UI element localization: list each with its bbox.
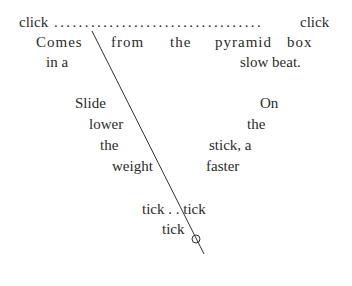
word-faster: faster	[206, 159, 239, 174]
word-pyramid: pyramid	[215, 35, 272, 50]
phrase-stick-a: stick, a	[209, 138, 252, 153]
word-comes: Comes	[36, 35, 83, 50]
word-on: On	[260, 96, 278, 111]
phrase-slow-beat: slow beat.	[240, 55, 301, 70]
phrase-in-a: in a	[46, 55, 68, 70]
word-lower: lower	[89, 117, 123, 132]
click-left: click	[19, 15, 48, 30]
word-from: from	[111, 35, 144, 50]
concrete-poem-metronome: click ..................................…	[0, 0, 352, 286]
dotted-leader: ..................................	[54, 15, 263, 30]
word-tick: tick	[162, 222, 185, 237]
word-weight: weight	[112, 159, 153, 174]
phrase-tick-tick: tick . . tick	[142, 202, 206, 217]
click-right: click	[300, 15, 329, 30]
word-slide: Slide	[75, 96, 106, 111]
word-the-3: the	[247, 117, 265, 132]
word-the-2: the	[100, 138, 118, 153]
word-the-1: the	[170, 35, 191, 50]
word-box: box	[287, 35, 313, 50]
